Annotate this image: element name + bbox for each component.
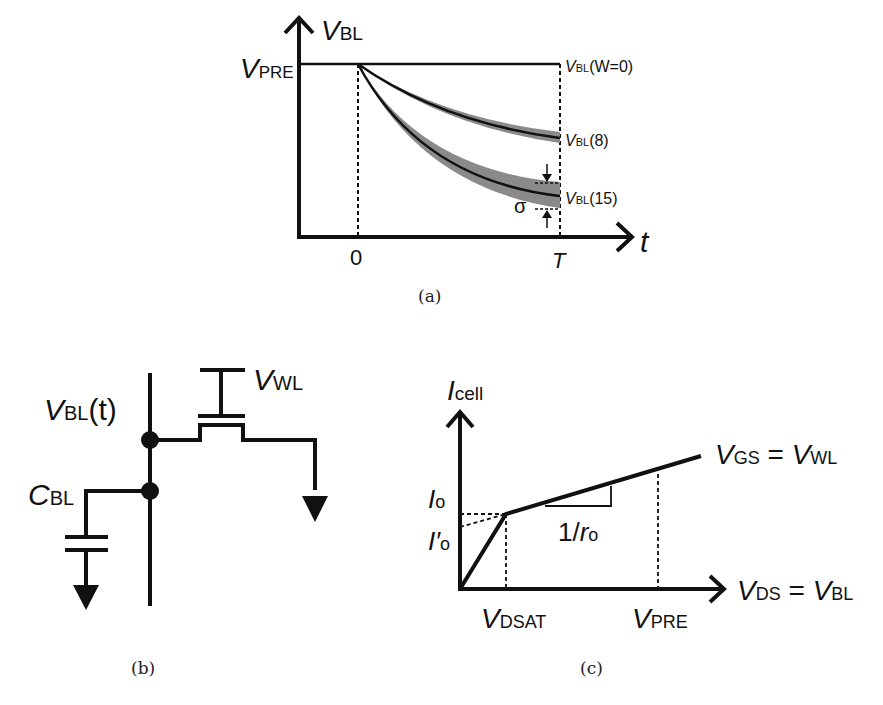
ground-icon-transistor bbox=[302, 496, 328, 522]
curve-vbl-8 bbox=[358, 64, 560, 138]
sigma-label: σ bbox=[514, 195, 527, 217]
band-8 bbox=[358, 64, 560, 143]
x-tick-T: T bbox=[552, 248, 567, 273]
curve-label-8: VBL(8) bbox=[565, 132, 609, 149]
panel-a-chart: VBL VPRE t 0 T VBL(W=0) VBL(8) VBL(15) σ… bbox=[240, 15, 650, 306]
sigma-arrowhead-bottom-icon bbox=[542, 210, 552, 218]
x-axis-label: t bbox=[640, 225, 650, 258]
curve-label-vgs: VGS = VWL bbox=[715, 439, 837, 470]
curve-label-15: VBL(15) bbox=[565, 190, 618, 207]
wordline-label: VWL bbox=[253, 363, 303, 396]
icell-label: Icell bbox=[447, 375, 483, 406]
slope-label: 1/ro bbox=[558, 517, 598, 547]
slope-triangle bbox=[545, 486, 611, 506]
capacitor-label: CBL bbox=[28, 478, 74, 511]
vpre-tick-label: VPRE bbox=[240, 53, 294, 84]
channel-wire bbox=[150, 425, 315, 490]
figure-canvas: VBL VPRE t 0 T VBL(W=0) VBL(8) VBL(15) σ… bbox=[0, 0, 883, 705]
bitline-label: VBL(t) bbox=[44, 393, 117, 426]
x-tick-0: 0 bbox=[350, 245, 362, 270]
caption-c: (c) bbox=[580, 658, 603, 678]
figure: VBL VPRE t 0 T VBL(W=0) VBL(8) VBL(15) σ… bbox=[0, 0, 883, 705]
io-label: Io bbox=[428, 484, 445, 514]
vdsat-tick-label: VDSAT bbox=[481, 603, 546, 634]
caption-b: (b) bbox=[131, 658, 155, 678]
ground-icon-capacitor bbox=[73, 585, 99, 610]
cap-wire bbox=[86, 491, 150, 535]
panel-c-chart: Icell Io I′o 1/ro VGS = VWL VDS = VBL VD… bbox=[428, 375, 853, 678]
y-axis-label: VBL bbox=[321, 15, 363, 46]
curve-label-w0: VBL(W=0) bbox=[565, 58, 633, 75]
vpre-tick-label-c: VPRE bbox=[632, 603, 688, 634]
caption-a: (a) bbox=[418, 286, 441, 306]
panel-b-circuit: VBL(t) VWL CBL (b) bbox=[28, 363, 328, 678]
vds-label: VDS = VBL bbox=[737, 575, 853, 606]
io-prime-label: I′o bbox=[428, 526, 450, 556]
